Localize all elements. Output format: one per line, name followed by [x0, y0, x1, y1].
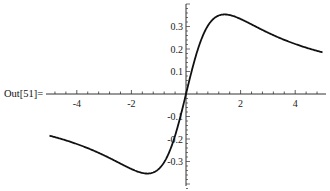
x-tick-label: 4	[293, 98, 298, 109]
y-tick-label: 0.1	[171, 66, 184, 77]
y-tick-label: -0.3	[167, 156, 183, 167]
x-tick-label: -4	[73, 98, 81, 109]
x-tick-label: 2	[238, 98, 243, 109]
y-tick-label: 0.3	[171, 21, 184, 32]
x-tick-label: -2	[127, 98, 135, 109]
y-tick-label: 0.2	[171, 44, 184, 55]
line-plot: -4-2240.30.20.1-0.1-0.2-0.3	[0, 0, 330, 191]
